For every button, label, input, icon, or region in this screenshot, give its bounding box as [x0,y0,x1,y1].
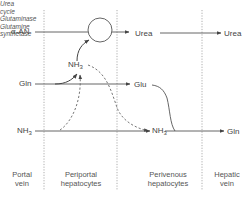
input-nh3-text: NH [17,126,29,135]
input-gln: Gln [19,79,31,88]
nh3-periportal-text: NH [68,60,80,69]
nh3-periportal: NH3 [68,60,83,69]
zone-label-hepatic-vein: Hepatic vein [206,170,248,188]
gln-hepatic-vein: Gln [227,127,239,136]
zone-hepatic-line2: vein [206,179,248,188]
glu-to-synthetase-curve [152,85,175,131]
zone-portal-line2: vein [2,179,42,188]
zone-perivenous-line2: hepatocytes [135,179,201,188]
diagram-canvas [0,0,250,197]
nh3-dashed-down-arrow [88,65,148,131]
nh3-perivenous-subscript: 3 [164,130,167,136]
liver-nitrogen-metabolism-diagram: α-AN Gln NH3 Urea cycle NH3 Glutaminase … [0,0,250,197]
zone-label-perivenous: Perivenous hepatocytes [135,170,201,188]
input-alpha-an: α-AN [11,27,29,36]
nh3-periportal-subscript: 3 [80,64,83,70]
nh3-to-urea-cycle-arrow [77,40,89,61]
zone-portal-line1: Portal [2,170,42,179]
zone-perivenous-line1: Perivenous [135,170,201,179]
urea-perivenous: Urea [135,29,152,38]
glu-node: Glu [134,80,146,89]
input-nh3: NH3 [17,126,32,135]
nh3-perivenous: NH3 [152,126,167,135]
zone-hepatic-line1: Hepatic [206,170,248,179]
zone-label-periportal: Periportal hepatocytes [48,170,114,188]
zone-label-portal-vein: Portal vein [2,170,42,188]
zone-periportal-line2: hepatocytes [48,179,114,188]
input-nh3-subscript: 3 [29,130,32,136]
glutaminase-arrow [55,74,77,84]
urea-cycle-node [88,18,112,42]
nh3-perivenous-text: NH [152,126,164,135]
zone-periportal-line1: Periportal [48,170,114,179]
urea-hepatic-vein: Urea [224,29,241,38]
